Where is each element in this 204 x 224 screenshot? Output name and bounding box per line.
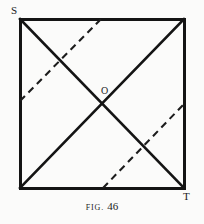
figure-caption-number: 46 (107, 200, 118, 212)
figure-caption: FIG. 46 (0, 200, 204, 212)
vertex-label-s: S (11, 5, 17, 16)
vertex-label-o: O (101, 86, 108, 96)
figure-caption-prefix: FIG. (86, 203, 105, 212)
figure-canvas (0, 0, 204, 224)
figure-page: S O T FIG. 46 (0, 0, 204, 224)
